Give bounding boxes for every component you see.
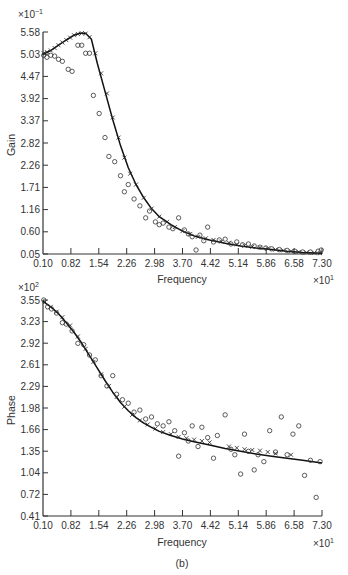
x-tick-label: 1.54 [89,520,109,531]
measured-point-marker [233,453,237,457]
measured-point-marker [111,373,115,377]
gain-x-multiplier: ×101 [313,274,334,286]
y-tick-label: 1.98 [21,403,41,414]
measured-point-marker [291,432,295,436]
x-tick-label: 0.10 [33,258,53,269]
gain-y-axis-label: Gain [5,134,17,156]
y-tick-label: 5.03 [21,49,41,60]
measured-point-marker [107,154,111,158]
measured-point-marker [91,93,95,97]
measured-point-marker [196,444,200,448]
measured-point-marker [205,225,209,229]
chart-canvas: ×10−1 0.050.601.161.712.262.823.373.924.… [0,0,348,575]
measured-point-marker [205,435,209,439]
x-tick-label: 6.58 [284,258,304,269]
measured-point-marker [223,413,227,417]
gain-y-tick-labels: 0.050.601.161.712.262.823.373.924.475.03… [21,27,41,260]
x-tick-label: 0.82 [61,258,81,269]
measured-point-marker [122,190,126,194]
measured-point-marker [194,248,198,252]
y-tick-label: 3.23 [21,316,41,327]
measured-point-marker [211,456,215,460]
measured-point-marker [118,174,122,178]
panel-label: (b) [176,557,189,569]
x-tick-label: 7.30 [312,258,332,269]
x-tick-label: 5.14 [229,258,249,269]
phase-chart: ×102 0.410.721.041.351.661.982.292.612.9… [5,281,334,549]
gain-series [42,31,324,255]
measured-point-marker [235,240,239,244]
model-point-marker [57,43,61,47]
measured-point-marker [297,424,301,428]
model-point-marker [235,446,239,450]
measured-point-marker [314,495,318,499]
phase-series [42,298,323,500]
y-tick-label: 4.47 [21,71,41,82]
measured-point-marker [153,220,157,224]
gain-x-tick-labels: 0.100.821.542.262.983.704.425.145.866.58… [33,258,332,269]
measured-point-marker [126,401,130,405]
measured-point-marker [120,398,124,402]
x-tick-label: 4.42 [201,258,221,269]
fitted-curve [43,33,322,253]
measured-point-marker [149,415,153,419]
measured-point-marker [267,429,271,433]
measured-point-marker [200,425,204,429]
measured-point-marker [176,216,180,220]
measured-point-marker [238,472,242,476]
gain-x-axis-label: Frequency [157,273,207,285]
measured-point-marker [155,422,159,426]
measured-point-marker [242,432,246,436]
gain-chart: ×10−1 0.050.601.161.712.262.823.373.924.… [5,8,334,286]
y-tick-label: 2.29 [21,381,41,392]
model-point-marker [122,405,126,409]
phase-x-multiplier: ×101 [313,537,334,549]
x-tick-label: 2.98 [145,258,165,269]
x-tick-label: 0.10 [33,520,53,531]
x-tick-label: 4.42 [201,520,221,531]
model-point-marker [138,418,142,422]
measured-point-marker [279,415,283,419]
measured-point-marker [190,424,194,428]
y-tick-label: 1.71 [21,182,41,193]
model-point-marker [157,215,161,219]
measured-point-marker [60,59,64,63]
y-tick-label: 1.16 [21,204,41,215]
gain-axes [43,32,322,254]
y-tick-label: 2.82 [21,138,41,149]
y-tick-label: 0.72 [21,489,41,500]
measured-point-marker [176,454,180,458]
x-tick-label: 5.86 [256,258,276,269]
measured-point-marker [302,473,306,477]
y-tick-label: 3.92 [21,93,41,104]
measured-point-marker [132,410,136,414]
measured-point-marker [262,459,266,463]
phase-y-multiplier: ×102 [18,281,39,293]
y-tick-label: 2.61 [21,359,41,370]
x-tick-label: 2.26 [117,258,137,269]
y-tick-label: 1.04 [21,467,41,478]
measured-point-marker [93,358,97,362]
measured-point-marker [103,135,107,139]
measured-point-marker [161,424,165,428]
measured-point-marker [112,159,116,163]
phase-axes [43,300,322,516]
x-tick-label: 3.70 [173,258,193,269]
measured-point-marker [126,182,130,186]
x-tick-label: 1.54 [89,258,109,269]
x-tick-label: 7.30 [312,520,332,531]
model-point-marker [200,439,204,443]
measured-point-marker [173,429,177,433]
measured-point-marker [285,453,289,457]
y-tick-label: 1.66 [21,424,41,435]
model-point-marker [266,450,270,454]
measured-point-marker [143,417,147,421]
y-tick-label: 1.35 [21,446,41,457]
measured-point-marker [223,237,227,241]
measured-point-marker [97,111,101,115]
measured-point-marker [143,216,147,220]
measured-point-marker [202,239,206,243]
measured-point-marker [167,420,171,424]
measured-point-marker [132,197,136,201]
measured-point-marker [147,209,151,213]
